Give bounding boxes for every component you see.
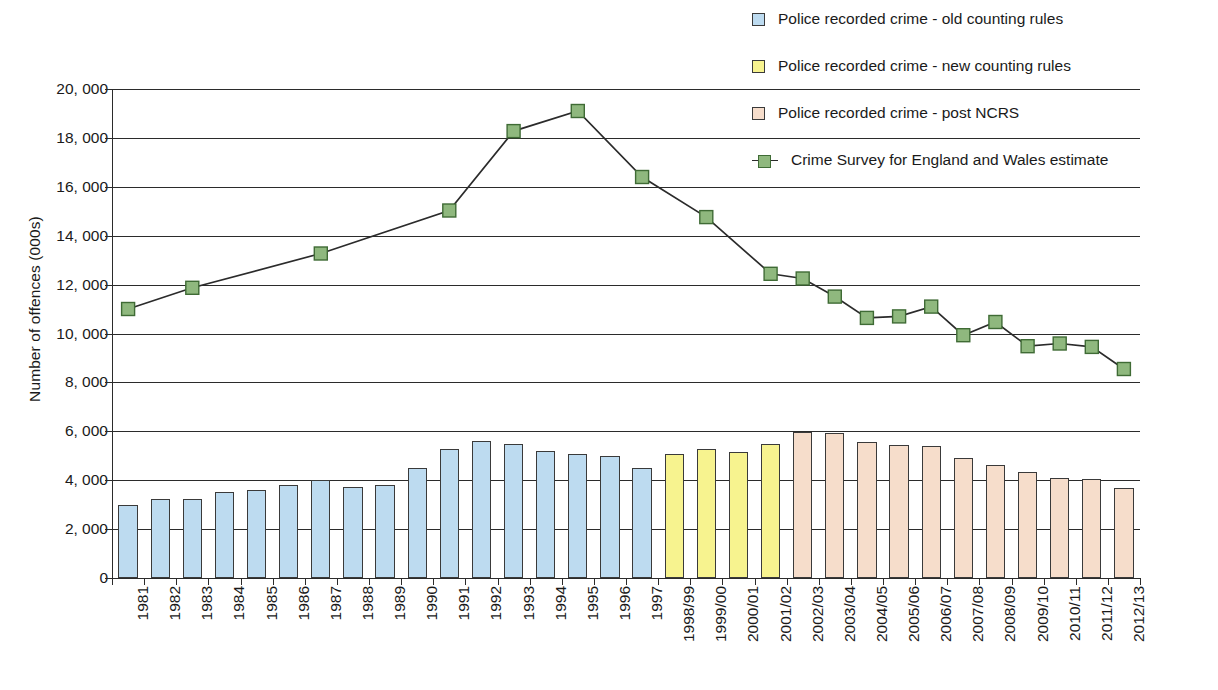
x-tick-label-1982: 1982 xyxy=(166,586,184,690)
x-tick-label-1992: 1992 xyxy=(487,586,505,690)
csew-marker-2008-09 xyxy=(989,316,1002,329)
y-tick-mark xyxy=(105,529,112,530)
x-tick-mark xyxy=(1140,578,1141,585)
x-tick-label-1995: 1995 xyxy=(584,586,602,690)
csew-marker-1999-00 xyxy=(700,211,713,224)
csew-marker-2012-13 xyxy=(1117,363,1130,376)
x-tick-label-1999-00: 1999/00 xyxy=(712,586,730,690)
y-tick-label: 20, 000 xyxy=(0,80,108,98)
legend-swatch-icon xyxy=(752,60,765,73)
y-tick-label: 6, 000 xyxy=(0,422,108,440)
x-tick-label-2010-11: 2010/11 xyxy=(1066,586,1084,690)
legend-label: Crime Survey for England and Wales estim… xyxy=(791,151,1108,169)
x-tick-label-1993: 1993 xyxy=(520,586,538,690)
csew-marker-2001-02 xyxy=(764,267,777,280)
x-tick-label-1997: 1997 xyxy=(648,586,666,690)
csew-marker-2002-03 xyxy=(796,272,809,285)
x-tick-label-2008-09: 2008/09 xyxy=(1001,586,1019,690)
x-tick-label-1981: 1981 xyxy=(134,586,152,690)
csew-marker-2003-04 xyxy=(828,290,841,303)
legend-swatch-icon xyxy=(752,107,765,120)
csew-marker-1981 xyxy=(122,303,135,316)
x-axis-tick-labels: 1981198219831984198519861987198819891990… xyxy=(112,578,1140,690)
y-tick-mark xyxy=(105,431,112,432)
y-axis-tick-labels: 20, 00018, 00016, 00014, 00012, 00010, 0… xyxy=(0,0,108,690)
legend-item-1[interactable]: Police recorded crime - old counting rul… xyxy=(752,8,1063,30)
x-tick-label-2005-06: 2005/06 xyxy=(905,586,923,690)
legend-label: Police recorded crime - post NCRS xyxy=(778,104,1019,122)
csew-marker-2006-07 xyxy=(925,300,938,313)
csew-marker-2005-06 xyxy=(893,310,906,323)
legend-label: Police recorded crime - new counting rul… xyxy=(778,57,1071,75)
x-tick-label-1987: 1987 xyxy=(327,586,345,690)
x-tick-label-2009-10: 2009/10 xyxy=(1034,586,1052,690)
y-tick-mark xyxy=(105,480,112,481)
y-tick-label: 10, 000 xyxy=(0,325,108,343)
csew-marker-2011-12 xyxy=(1085,340,1098,353)
x-tick-label-1990: 1990 xyxy=(423,586,441,690)
csew-marker-2007-08 xyxy=(957,329,970,342)
x-tick-label-1994: 1994 xyxy=(552,586,570,690)
x-tick-label-2002-03: 2002/03 xyxy=(809,586,827,690)
y-tick-mark xyxy=(105,382,112,383)
y-tick-mark xyxy=(105,138,112,139)
y-tick-label: 0 xyxy=(0,569,108,587)
x-tick-label-1996: 1996 xyxy=(616,586,634,690)
y-tick-label: 18, 000 xyxy=(0,129,108,147)
y-tick-label: 8, 000 xyxy=(0,373,108,391)
x-tick-label-2006-07: 2006/07 xyxy=(937,586,955,690)
y-tick-label: 14, 000 xyxy=(0,227,108,245)
x-tick-label-1991: 1991 xyxy=(455,586,473,690)
x-tick-label-2000-01: 2000/01 xyxy=(744,586,762,690)
legend-label: Police recorded crime - old counting rul… xyxy=(778,10,1063,28)
y-tick-mark xyxy=(105,285,112,286)
x-tick-label-2007-08: 2007/08 xyxy=(969,586,987,690)
legend-item-2[interactable]: Police recorded crime - new counting rul… xyxy=(752,55,1071,77)
csew-marker-1993 xyxy=(507,125,520,138)
y-tick-mark xyxy=(105,89,112,90)
y-tick-label: 16, 000 xyxy=(0,178,108,196)
x-tick-label-1986: 1986 xyxy=(295,586,313,690)
x-tick-label-2011-12: 2011/12 xyxy=(1098,586,1116,690)
legend-item-3[interactable]: Police recorded crime - post NCRS xyxy=(752,102,1019,124)
x-tick-label-2012-13: 2012/13 xyxy=(1130,586,1148,690)
y-tick-mark xyxy=(105,578,112,579)
csew-marker-2004-05 xyxy=(860,311,873,324)
y-tick-label: 4, 000 xyxy=(0,471,108,489)
x-tick-label-2001-02: 2001/02 xyxy=(777,586,795,690)
legend-line-marker-icon xyxy=(752,154,778,167)
x-tick-label-1988: 1988 xyxy=(359,586,377,690)
legend-swatch-icon xyxy=(752,13,765,26)
y-tick-mark xyxy=(105,187,112,188)
y-tick-label: 12, 000 xyxy=(0,276,108,294)
x-tick-label-2004-05: 2004/05 xyxy=(873,586,891,690)
csew-marker-1991 xyxy=(443,204,456,217)
x-tick-label-1989: 1989 xyxy=(391,586,409,690)
y-tick-label: 2, 000 xyxy=(0,520,108,538)
x-tick-label-1998-99: 1998/99 xyxy=(680,586,698,690)
y-tick-mark xyxy=(105,236,112,237)
x-tick-label-1985: 1985 xyxy=(263,586,281,690)
legend-item-4[interactable]: Crime Survey for England and Wales estim… xyxy=(752,149,1108,171)
x-tick-label-1983: 1983 xyxy=(198,586,216,690)
csew-marker-1997 xyxy=(636,171,649,184)
chart-figure: Number of offences (000s) 20, 00018, 000… xyxy=(0,0,1218,690)
x-tick-label-1984: 1984 xyxy=(230,586,248,690)
csew-marker-1995 xyxy=(571,105,584,118)
x-tick-label-2003-04: 2003/04 xyxy=(841,586,859,690)
csew-marker-2009-10 xyxy=(1021,340,1034,353)
csew-marker-1983 xyxy=(186,281,199,294)
y-tick-mark xyxy=(105,334,112,335)
csew-marker-1987 xyxy=(314,247,327,260)
csew-marker-2010-11 xyxy=(1053,337,1066,350)
